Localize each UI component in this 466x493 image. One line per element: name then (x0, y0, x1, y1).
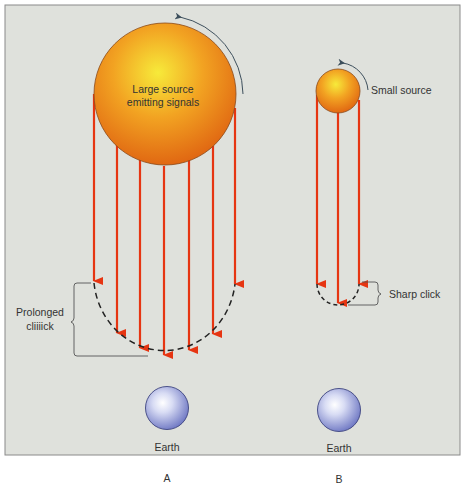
prolonged-click-label-2: cliiiick (26, 320, 54, 332)
signal-duration-diagram: Large source emitting signals Prolonged … (0, 0, 466, 493)
earth-label-a: Earth (154, 441, 179, 453)
large-source-label-2: emitting signals (127, 96, 199, 108)
earth-sphere-a (146, 387, 189, 430)
sharp-click-label: Sharp click (389, 288, 441, 300)
large-source-label: Large source (132, 83, 193, 95)
small-source-sphere (316, 69, 360, 113)
panel-letter-a: A (163, 472, 170, 484)
earth-label-b: Earth (326, 442, 351, 454)
small-source-label: Small source (371, 84, 432, 96)
panel-letter-b: B (335, 473, 342, 485)
earth-sphere-b (318, 389, 361, 432)
prolonged-click-label: Prolonged (16, 306, 64, 318)
